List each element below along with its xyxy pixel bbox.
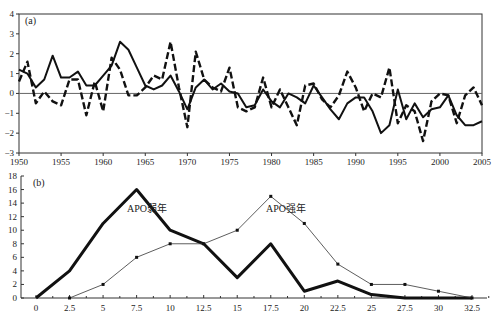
x-tick-label: 7.5: [131, 303, 143, 313]
x-tick-label: 10: [166, 303, 176, 313]
annotation-strong-year: APO强年: [266, 202, 306, 214]
data-marker: [303, 222, 306, 225]
x-tick-label: 22.5: [330, 303, 346, 313]
y-tick-label: 8: [13, 239, 18, 249]
data-marker: [135, 256, 138, 259]
x-tick-label: 25: [367, 303, 377, 313]
data-marker: [102, 283, 105, 286]
x-tick-label: 0: [34, 303, 39, 313]
x-tick-label: 1965: [136, 157, 155, 167]
x-tick-label: 2.5: [64, 303, 76, 313]
x-tick-label: 20: [300, 303, 310, 313]
y-tick-label: 2: [10, 49, 15, 59]
y-tick-label: 10: [8, 225, 18, 235]
x-tick-label: 1955: [52, 157, 71, 167]
data-marker: [169, 242, 172, 245]
y-tick-label: 16: [8, 185, 18, 195]
x-tick-label: 27.5: [397, 303, 413, 313]
y-tick-label: 4: [13, 266, 18, 276]
y-tick-label: 14: [8, 198, 18, 208]
y-tick-label: 18: [8, 171, 18, 181]
data-marker: [269, 195, 272, 198]
y-tick-label: 3: [10, 29, 15, 39]
series-solid-line: [19, 42, 482, 133]
panel-b-label: (b): [33, 177, 45, 189]
panel-a: [16, 14, 482, 156]
x-tick-label: 17.5: [263, 303, 279, 313]
data-marker: [68, 297, 71, 300]
data-marker: [403, 283, 406, 286]
x-tick-label: 1975: [220, 157, 239, 167]
y-tick-label: −1: [4, 108, 14, 118]
x-tick-label: 12.5: [196, 303, 212, 313]
data-marker: [236, 229, 239, 232]
data-marker: [370, 283, 373, 286]
x-tick-label: 1960: [94, 157, 113, 167]
x-tick-label: 1970: [178, 157, 197, 167]
x-tick-label: 2005: [473, 157, 492, 167]
series-weak-year-line: [36, 190, 472, 298]
panel-a-frame: [19, 14, 482, 153]
x-tick-label: 1995: [389, 157, 408, 167]
x-tick-label: 2000: [431, 157, 450, 167]
data-marker: [202, 242, 205, 245]
panel-b: [21, 176, 489, 300]
panel-a-label: (a): [25, 15, 36, 27]
figure: −3−2−10123419501955196019651970197519801…: [0, 0, 499, 323]
annotation-weak-year: APO弱年: [127, 202, 167, 214]
x-tick-label: 5: [101, 303, 106, 313]
y-tick-label: 4: [10, 9, 15, 19]
data-marker: [471, 297, 474, 300]
y-tick-label: 12: [8, 212, 17, 222]
y-tick-label: 0: [10, 88, 15, 98]
x-tick-label: 1990: [347, 157, 366, 167]
x-tick-label: 1985: [305, 157, 324, 167]
x-tick-label: 1980: [263, 157, 282, 167]
y-tick-label: 2: [13, 279, 18, 289]
x-tick-label: 30: [434, 303, 444, 313]
x-tick-label: 15: [233, 303, 243, 313]
data-marker: [336, 263, 339, 266]
y-tick-label: −2: [4, 128, 14, 138]
y-tick-label: 6: [13, 252, 18, 262]
y-tick-label: 0: [13, 293, 18, 303]
data-marker: [437, 290, 440, 293]
series-dashed-line: [19, 42, 482, 141]
x-tick-label: 32.5: [464, 303, 480, 313]
y-tick-label: 1: [10, 69, 15, 79]
x-tick-label: 1950: [10, 157, 29, 167]
